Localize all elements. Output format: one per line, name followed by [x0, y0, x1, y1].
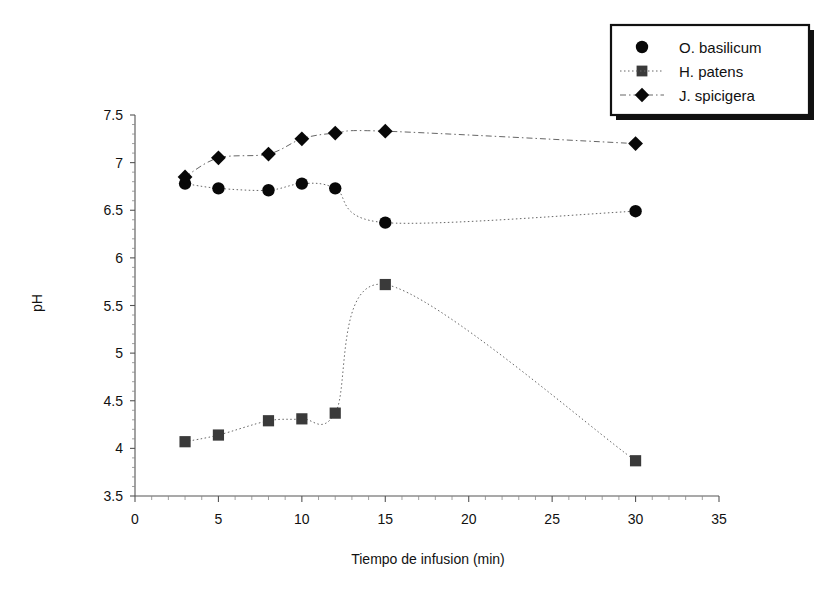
x-tick-label: 20: [461, 511, 477, 527]
data-point-square: [630, 455, 641, 466]
data-point-square: [213, 429, 224, 440]
x-tick-label: 30: [628, 511, 644, 527]
x-tick-label: 5: [215, 511, 223, 527]
data-point-square: [330, 408, 341, 419]
y-tick-label: 6: [115, 250, 123, 266]
x-tick-label: 35: [711, 511, 727, 527]
y-tick-label: 5.5: [104, 298, 124, 314]
y-axis-title: pH: [29, 294, 45, 312]
ph-vs-infusion-time-chart: 3.544.555.566.577.5 05101520253035 pH Ti…: [0, 0, 824, 600]
y-tick-label: 7.5: [104, 107, 124, 123]
x-tick-label: 25: [544, 511, 560, 527]
data-point-circle: [212, 182, 224, 194]
y-axis: 3.544.555.566.577.5: [104, 107, 135, 504]
y-tick-label: 7: [115, 155, 123, 171]
data-point-circle: [379, 216, 391, 228]
data-point-square: [263, 415, 274, 426]
y-tick-label: 5: [115, 345, 123, 361]
data-point-square: [179, 436, 190, 447]
data-point-circle: [296, 177, 308, 189]
y-tick-label: 4: [115, 440, 123, 456]
data-point-circle: [262, 184, 274, 196]
data-point-square: [296, 413, 307, 424]
data-point-circle: [329, 182, 341, 194]
x-axis-title: Tiempo de infusion (min): [351, 551, 505, 567]
chart-container: 3.544.555.566.577.5 05101520253035 pH Ti…: [0, 0, 824, 600]
legend-item-label: O. basilicum: [679, 39, 762, 56]
y-tick-label: 3.5: [104, 488, 124, 504]
legend-item-label: J. spicigera: [679, 87, 756, 104]
data-point-square: [380, 279, 391, 290]
x-tick-label: 10: [294, 511, 310, 527]
data-point-circle: [629, 205, 641, 217]
legend-item-label: H. patens: [679, 63, 743, 80]
legend-square-icon: [637, 66, 648, 77]
legend-circle-icon: [636, 41, 648, 53]
legend: O. basilicumH. patensJ. spicigera: [611, 25, 814, 120]
x-tick-label: 15: [377, 511, 393, 527]
y-tick-label: 6.5: [104, 202, 124, 218]
x-tick-label: 0: [131, 511, 139, 527]
y-tick-label: 4.5: [104, 393, 124, 409]
x-axis: 05101520253035: [131, 496, 727, 527]
